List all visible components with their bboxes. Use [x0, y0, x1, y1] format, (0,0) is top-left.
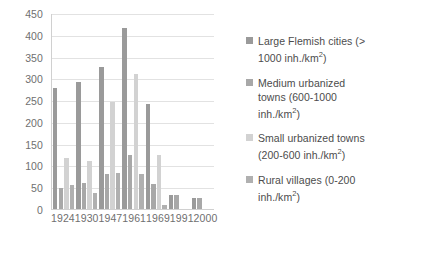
- y-axis-tick: 450: [25, 8, 43, 20]
- x-axis-tick: 1961: [122, 212, 146, 224]
- bar: [122, 28, 126, 209]
- bar: [87, 161, 91, 209]
- bar: [174, 195, 178, 209]
- y-axis-tick: 150: [25, 139, 43, 151]
- bar: [139, 174, 143, 209]
- bar: [110, 102, 114, 209]
- bar-group: [75, 14, 98, 209]
- x-axis-tick: 1991: [170, 212, 194, 224]
- bar: [105, 174, 109, 209]
- bar: [59, 188, 63, 209]
- bar: [82, 183, 86, 209]
- y-axis-tick: 50: [31, 182, 43, 194]
- bar: [64, 158, 68, 209]
- legend-swatch-icon: [246, 37, 253, 44]
- y-axis: 450400350300250200150100500: [14, 14, 47, 210]
- legend-swatch-icon: [246, 79, 253, 86]
- bar: [151, 184, 155, 209]
- legend-swatch-icon: [246, 134, 253, 141]
- legend-item[interactable]: Large Flemish cities (>1000 inh./km2): [246, 34, 432, 65]
- legend-label: Rural villages (0-200inh./km2): [258, 173, 355, 204]
- bar: [53, 88, 57, 209]
- legend-label: Small urbanized towns(200-600 inh./km2): [258, 131, 365, 162]
- x-axis-tick: 1969: [146, 212, 170, 224]
- bar: [116, 173, 120, 209]
- y-axis-tick: 400: [25, 30, 43, 42]
- x-axis-tick: 1947: [99, 212, 123, 224]
- bar-chart: 450400350300250200150100500 192419301947…: [0, 0, 441, 275]
- bar-groups: [52, 14, 214, 209]
- legend-item[interactable]: Small urbanized towns(200-600 inh./km2): [246, 131, 432, 162]
- bar: [99, 67, 103, 209]
- bar-group: [191, 14, 214, 209]
- bar-group: [145, 14, 168, 209]
- y-axis-tick: 350: [25, 52, 43, 64]
- bar: [76, 82, 80, 209]
- x-axis-tick: 1930: [75, 212, 99, 224]
- bar: [134, 74, 138, 209]
- bar-group: [121, 14, 144, 209]
- y-axis-tick: 100: [25, 160, 43, 172]
- x-axis-tick: 1924: [51, 212, 75, 224]
- bar: [146, 104, 150, 209]
- legend-item[interactable]: Rural villages (0-200inh./km2): [246, 173, 432, 204]
- bar-group: [168, 14, 191, 209]
- bar: [162, 205, 166, 209]
- bar: [169, 195, 173, 209]
- bar: [93, 193, 97, 209]
- x-axis: 1924193019471961196919912000: [51, 212, 214, 224]
- y-axis-tick: 250: [25, 95, 43, 107]
- plot-area: [51, 14, 214, 210]
- legend-swatch-icon: [246, 176, 253, 183]
- bar: [157, 155, 161, 209]
- plot-wrapper: 450400350300250200150100500 192419301947…: [14, 14, 214, 228]
- bar-group: [52, 14, 75, 209]
- legend-label: Medium urbanizedtowns (600-1000inh./km2): [258, 76, 345, 121]
- bar: [192, 198, 196, 209]
- y-axis-tick: 200: [25, 117, 43, 129]
- x-axis-tick: 2000: [194, 212, 218, 224]
- y-axis-tick: 300: [25, 73, 43, 85]
- y-axis-tick: 0: [37, 204, 43, 216]
- bar-group: [98, 14, 121, 209]
- bar: [197, 198, 201, 209]
- legend-item[interactable]: Medium urbanizedtowns (600-1000inh./km2): [246, 76, 432, 121]
- legend: Large Flemish cities (>1000 inh./km2)Med…: [246, 34, 432, 214]
- bar: [128, 155, 132, 209]
- legend-label: Large Flemish cities (>1000 inh./km2): [258, 34, 365, 65]
- bar: [70, 185, 74, 209]
